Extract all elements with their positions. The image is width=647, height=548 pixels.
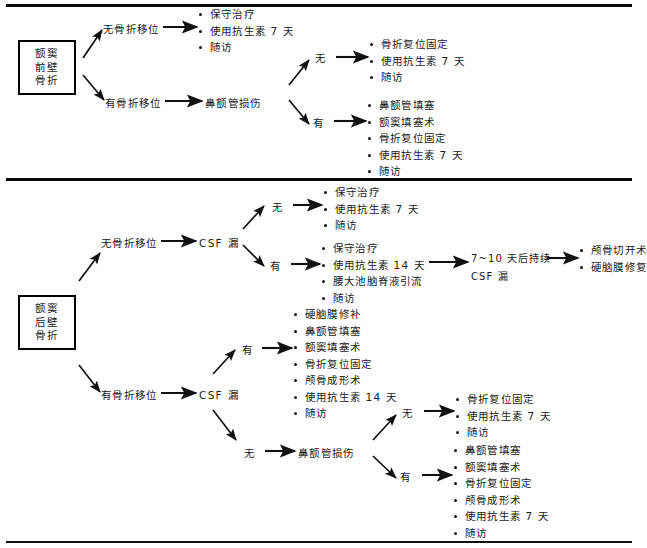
list-item: 保守治疗 [322, 240, 425, 257]
list-item: 颅骨成形术 [294, 372, 397, 389]
list-item: 保守治疗 [324, 184, 419, 201]
node-bottom-csf-leak-lower: CSF 漏 [199, 387, 239, 402]
condition-top-duct-yes: 有 [313, 115, 324, 130]
root-line-3: 骨折 [35, 74, 58, 87]
list-item: 随访 [454, 525, 549, 542]
list-bottom-duct-no-outcomes: 骨折复位固定 使用抗生素 7 天 随访 [456, 391, 551, 441]
divider-bottom [6, 541, 632, 543]
list-item: 使用抗生素 14 天 [322, 257, 425, 274]
list-item: 随访 [324, 217, 419, 234]
list-top-duct-yes-outcomes: 鼻额管填塞 额窦填塞术 骨折复位固定 使用抗生素 7 天 随访 [368, 97, 463, 180]
list-item: 使用抗生素 14 天 [294, 389, 397, 406]
list-item: 骨折复位固定 [294, 356, 397, 373]
list-item: 随访 [368, 163, 463, 180]
list-item: 随访 [322, 290, 425, 307]
condition-bottom-upper-csf-no: 无 [272, 199, 283, 214]
list-item: 使用抗生素 7 天 [454, 508, 549, 525]
root-line-2: 前壁 [35, 61, 58, 74]
node-bottom-no-displacement: 无骨折移位 [101, 235, 158, 250]
list-persistent-csf-leak-outcomes: 颅骨切开术 硬脑膜修复 [580, 242, 647, 275]
list-item: 额窦填塞术 [368, 114, 463, 131]
list-item: 鼻额管填塞 [294, 323, 397, 340]
list-item: 额窦填塞术 [294, 339, 397, 356]
list-item: 随访 [199, 39, 294, 56]
list-item: 使用抗生素 7 天 [370, 53, 465, 70]
list-item: 鼻额管填塞 [454, 442, 549, 459]
list-item: 腰大池脑脊液引流 [322, 273, 425, 290]
node-top-with-displacement: 有骨折移位 [105, 95, 162, 110]
list-item: 使用抗生素 7 天 [199, 23, 294, 40]
root-node-posterior-wall-fracture: 额窦 后壁 骨折 [18, 295, 76, 350]
list-top-no-displacement-outcomes: 保守治疗 使用抗生素 7 天 随访 [199, 6, 294, 56]
list-item: 随访 [294, 405, 397, 422]
node-bottom-csf-leak-upper: CSF 漏 [199, 235, 239, 250]
node-bottom-with-displacement: 有骨折移位 [101, 387, 158, 402]
list-item: 硬脑膜修复 [580, 259, 647, 276]
list-item: 颅骨成形术 [454, 492, 549, 509]
root-line-3: 骨折 [35, 329, 58, 342]
list-item: 使用抗生素 7 天 [456, 408, 551, 425]
root-line-1: 额窦 [35, 302, 58, 315]
list-item: 骨折复位固定 [370, 36, 465, 53]
node-top-nasofrontal-duct-injury: 鼻额管损伤 [205, 95, 262, 110]
list-item: 骨折复位固定 [368, 130, 463, 147]
divider-middle [6, 178, 632, 181]
condition-bottom-duct-yes: 有 [400, 469, 411, 484]
list-bottom-upper-csf-no-outcomes: 保守治疗 使用抗生素 7 天 随访 [324, 184, 419, 234]
node-top-no-displacement: 无骨折移位 [103, 21, 160, 36]
condition-bottom-lower-csf-yes: 有 [242, 342, 253, 357]
condition-top-duct-no: 无 [315, 50, 326, 65]
node-bottom-nasofrontal-duct-injury: 鼻额管损伤 [298, 445, 355, 460]
list-item: 随访 [370, 69, 465, 86]
condition-bottom-duct-no: 无 [402, 405, 413, 420]
list-bottom-upper-csf-yes-outcomes: 保守治疗 使用抗生素 14 天 腰大池脑脊液引流 随访 [322, 240, 425, 306]
root-node-anterior-wall-fracture: 额窦 前壁 骨折 [18, 40, 76, 95]
divider-top [6, 4, 632, 7]
root-line-2: 后壁 [35, 316, 58, 329]
list-item: 硬脑膜修补 [294, 306, 397, 323]
list-item: 颅骨切开术 [580, 242, 647, 259]
condition-bottom-upper-csf-yes: 有 [270, 258, 281, 273]
list-top-duct-no-outcomes: 骨折复位固定 使用抗生素 7 天 随访 [370, 36, 465, 86]
list-item: 使用抗生素 7 天 [324, 201, 419, 218]
list-item: 骨折复位固定 [456, 391, 551, 408]
condition-bottom-lower-csf-no: 无 [244, 445, 255, 460]
root-line-1: 额窦 [35, 47, 58, 60]
node-persistent-csf-leak-line1: 7~10 天后持续 [471, 250, 552, 265]
list-item: 额窦填塞术 [454, 459, 549, 476]
list-bottom-duct-yes-outcomes: 鼻额管填塞 额窦填塞术 骨折复位固定 颅骨成形术 使用抗生素 7 天 随访 [454, 442, 549, 541]
list-item: 鼻额管填塞 [368, 97, 463, 114]
list-item: 随访 [456, 424, 551, 441]
list-bottom-lower-csf-yes-outcomes: 硬脑膜修补 鼻额管填塞 额窦填塞术 骨折复位固定 颅骨成形术 使用抗生素 14 … [294, 306, 397, 422]
list-item: 使用抗生素 7 天 [368, 147, 463, 164]
list-item: 保守治疗 [199, 6, 294, 23]
list-item: 骨折复位固定 [454, 475, 549, 492]
node-persistent-csf-leak-line2: CSF 漏 [471, 268, 509, 283]
